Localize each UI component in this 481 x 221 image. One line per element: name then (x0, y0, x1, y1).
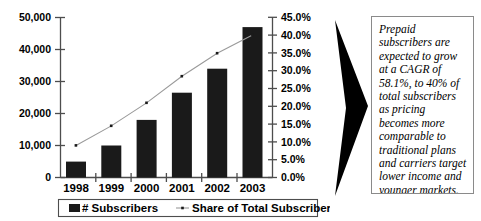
legend-label-share: Share of Total Subscribers (192, 202, 330, 214)
chart-area: 0 10,000 20,000 30,000 40,000 50,000 (0, 0, 330, 221)
left-tick-label: 10,000 (19, 139, 51, 151)
callout-textbox: Prepaid subscribers are expected to grow… (371, 16, 474, 194)
left-axis-labels: 0 10,000 20,000 30,000 40,000 50,000 (19, 11, 51, 183)
category-labels: 1998 1999 2000 2001 2002 2003 (63, 182, 265, 194)
right-tick-label: 40.0% (281, 29, 311, 41)
bar-2003 (243, 27, 263, 177)
bar-series (66, 27, 263, 177)
right-tick-label: 15.0% (281, 118, 311, 130)
category-label: 1999 (99, 182, 125, 194)
right-tick-label: 5.0% (281, 153, 306, 165)
right-tick-label: 10.0% (281, 136, 311, 148)
right-tick-label: 35.0% (281, 47, 311, 59)
legend-label-subscribers: # Subscribers (82, 202, 158, 214)
category-label: 2000 (134, 182, 160, 194)
left-tick-label: 50,000 (19, 11, 51, 23)
callout-text: Prepaid subscribers are expected to grow… (379, 23, 466, 194)
right-tick-label: 25.0% (281, 82, 311, 94)
category-label: 1998 (63, 182, 89, 194)
left-tick-label: 0 (45, 171, 51, 183)
right-axis-labels: 0.0% 5.0% 10.0% 15.0% 20.0% 25.0% 30.0% … (281, 11, 311, 183)
left-tick-label: 30,000 (19, 75, 51, 87)
legend-marker-subscribers (69, 204, 80, 212)
chart-figure: 0 10,000 20,000 30,000 40,000 50,000 (0, 0, 481, 221)
right-arrow-icon (330, 18, 370, 198)
bar-2000 (137, 120, 157, 178)
category-label: 2003 (240, 182, 266, 194)
bar-1998 (66, 162, 86, 178)
right-tick-label: 20.0% (281, 100, 311, 112)
right-tick-label: 0.0% (281, 171, 306, 183)
combo-chart-svg: 0 10,000 20,000 30,000 40,000 50,000 (0, 0, 330, 221)
left-tick-label: 40,000 (19, 43, 51, 55)
bar-2002 (207, 69, 227, 178)
category-label: 2001 (169, 182, 195, 194)
right-tick-label: 45.0% (281, 11, 311, 23)
chart-legend: # Subscribers Share of Total Subscribers (59, 200, 331, 217)
left-tick-label: 20,000 (19, 107, 51, 119)
bar-1999 (101, 146, 121, 178)
right-tick-label: 30.0% (281, 64, 311, 76)
bar-2001 (172, 93, 192, 178)
category-label: 2002 (204, 182, 230, 194)
